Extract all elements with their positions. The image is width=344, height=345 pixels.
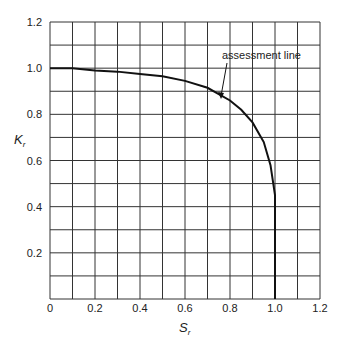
x-tick-label: 0.2 — [87, 302, 102, 314]
x-tick-label: 0.8 — [222, 302, 237, 314]
x-tick-label: 0 — [47, 302, 53, 314]
annotation-label: assessment line — [222, 49, 301, 61]
y-tick-labels: 0.20.40.60.81.01.2 — [27, 16, 42, 259]
x-tick-label: 1.2 — [312, 302, 327, 314]
y-axis-label: Kr — [14, 132, 26, 149]
y-tick-label: 0.4 — [27, 201, 42, 213]
x-tick-label: 0.4 — [132, 302, 147, 314]
y-tick-label: 0.2 — [27, 247, 42, 259]
x-tick-labels: 00.20.40.60.81.01.2 — [47, 302, 328, 314]
grid-lines — [50, 22, 320, 299]
y-tick-label: 1.0 — [27, 62, 42, 74]
x-axis-label: Sr — [179, 320, 191, 337]
x-tick-label: 1.0 — [267, 302, 282, 314]
y-tick-label: 0.8 — [27, 108, 42, 120]
x-tick-label: 0.6 — [177, 302, 192, 314]
chart: 00.20.40.60.81.01.2 0.20.40.60.81.01.2 a… — [0, 0, 344, 345]
y-tick-label: 1.2 — [27, 16, 42, 28]
y-tick-label: 0.6 — [27, 155, 42, 167]
